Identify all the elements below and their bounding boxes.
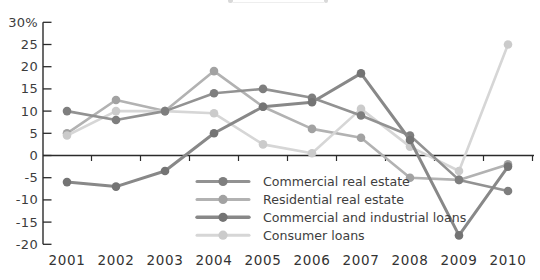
data-point [63, 107, 72, 116]
legend-label: Commercial and industrial loans [263, 210, 466, 225]
data-point [210, 67, 219, 76]
data-point [259, 85, 268, 94]
x-tick-label: 2010 [490, 252, 527, 268]
data-point [455, 167, 464, 176]
chart-canvas: 30%2520151050-5-10-15-202001200220032004… [0, 0, 540, 280]
data-point [406, 136, 415, 145]
y-tick-label: -15 [16, 215, 38, 230]
legend-dot-swatch [218, 231, 227, 240]
data-point [259, 140, 268, 149]
y-tick-label: 5 [29, 126, 38, 141]
x-tick-label: 2008 [392, 252, 429, 268]
data-point [504, 162, 513, 171]
x-tick-label: 2004 [196, 252, 233, 268]
x-tick-label: 2001 [49, 252, 86, 268]
legend-dot-swatch [218, 195, 227, 204]
legend-label: Commercial real estate [263, 174, 410, 189]
data-point [210, 129, 219, 138]
data-point [357, 133, 366, 142]
data-point [161, 107, 170, 116]
legend-item-commercial-and-industrial-loans: Commercial and industrial loans [197, 210, 466, 225]
y-tick-label: -20 [16, 237, 38, 252]
y-tick-label: 0 [29, 148, 38, 163]
x-tick-label: 2006 [294, 252, 331, 268]
y-tick-label: 15 [21, 81, 38, 96]
y-tick-label: -5 [24, 170, 38, 185]
data-point [455, 231, 464, 240]
loan-growth-chart-figure: 30%2520151050-5-10-15-202001200220032004… [0, 0, 540, 280]
data-point [112, 96, 121, 105]
data-point [259, 102, 268, 111]
x-tick-label: 2009 [441, 252, 478, 268]
y-tick-label: 10 [21, 104, 38, 119]
legend-item-residential-real-estate: Residential real estate [197, 192, 404, 207]
y-tick-label: 25 [21, 37, 38, 52]
data-point [357, 69, 366, 78]
y-tick-label: 20 [21, 59, 38, 74]
data-point [112, 107, 121, 116]
data-point [357, 111, 366, 120]
x-tick-label: 2003 [147, 252, 184, 268]
legend-item-commercial-real-estate: Commercial real estate [197, 174, 410, 189]
y-tick-label: -10 [16, 192, 38, 207]
legend-item-consumer-loans: Consumer loans [197, 228, 365, 243]
legend: Commercial real estateResidential real e… [197, 174, 466, 243]
cropped-title-fragment [233, 2, 324, 3]
x-tick-label: 2005 [245, 252, 282, 268]
data-point [308, 98, 317, 107]
legend-label: Consumer loans [263, 228, 365, 243]
data-point [112, 116, 121, 125]
y-tick-label: 30% [8, 15, 38, 30]
data-point [308, 149, 317, 158]
x-tick-label: 2007 [343, 252, 380, 268]
data-point [455, 176, 464, 185]
data-point [210, 89, 219, 98]
data-point [504, 187, 513, 196]
x-tick-label: 2002 [98, 252, 135, 268]
legend-dot-swatch [218, 213, 227, 222]
legend-dot-swatch [218, 177, 227, 186]
data-point [210, 109, 219, 118]
data-point [504, 40, 513, 49]
data-point [63, 178, 72, 187]
data-point [308, 125, 317, 134]
data-point [63, 131, 72, 140]
series-line [67, 45, 508, 172]
data-point [112, 182, 121, 191]
data-point [161, 167, 170, 176]
legend-label: Residential real estate [263, 192, 404, 207]
